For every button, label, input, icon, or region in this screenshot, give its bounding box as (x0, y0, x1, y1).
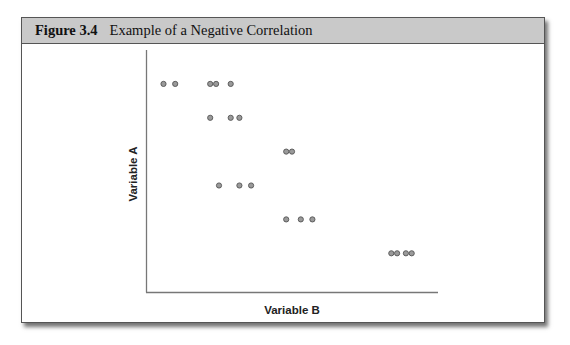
data-point (298, 217, 303, 222)
data-point (208, 115, 213, 120)
data-point (228, 81, 233, 86)
y-axis-label: Variable A (127, 146, 139, 201)
data-point (216, 183, 221, 188)
data-point (161, 81, 166, 86)
data-point (237, 115, 242, 120)
data-point (409, 251, 414, 256)
data-point (284, 149, 289, 154)
data-points (161, 81, 414, 256)
data-point (228, 115, 233, 120)
data-point (395, 251, 400, 256)
data-point (237, 183, 242, 188)
x-axis-label: Variable B (264, 304, 320, 316)
data-point (208, 81, 213, 86)
data-point (214, 81, 219, 86)
data-point (249, 183, 254, 188)
data-point (173, 81, 178, 86)
data-point (389, 251, 394, 256)
data-point (284, 217, 289, 222)
data-point (310, 217, 315, 222)
scatter-plot (0, 0, 570, 345)
data-point (289, 149, 294, 154)
data-point (403, 251, 408, 256)
